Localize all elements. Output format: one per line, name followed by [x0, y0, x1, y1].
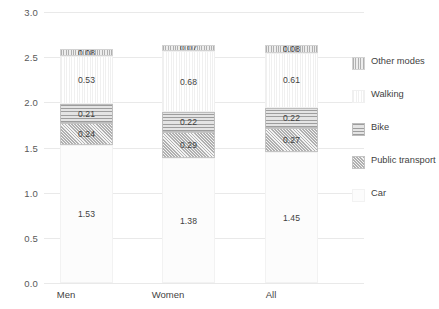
segment-value: 0.21: [78, 109, 95, 119]
segment-all-bike[interactable]: 0.22: [265, 108, 318, 128]
segment-value: 0.08: [283, 45, 300, 52]
legend-label-other-modes: Other modes: [371, 56, 425, 68]
stacked-bar-chart: 3.0 2.5 2.0 1.5 1.0 0.5 0.0 0.08 0.53 0.…: [0, 0, 439, 309]
bar-all[interactable]: 0.08 0.61 0.22 0.27 1.45: [265, 45, 318, 283]
y-axis-tick-3-0: 3.0: [24, 7, 38, 18]
segment-value: 0.22: [180, 117, 197, 127]
legend-label-walking: Walking: [371, 89, 404, 101]
gridline-0-0: [44, 283, 364, 284]
segment-value: 1.53: [78, 209, 95, 219]
segment-men-car[interactable]: 1.53: [60, 145, 113, 283]
segment-all-other-modes[interactable]: 0.08: [265, 45, 318, 52]
swatch-walking-icon: [352, 90, 365, 103]
segment-value: 0.29: [180, 140, 197, 150]
x-axis-label-men: Men: [26, 289, 106, 300]
legend-label-car: Car: [371, 188, 386, 200]
segment-value: 1.45: [283, 213, 300, 223]
segment-women-public-transport[interactable]: 0.29: [162, 132, 215, 158]
plot-area: 3.0 2.5 2.0 1.5 1.0 0.5 0.0 0.08 0.53 0.…: [44, 12, 364, 283]
legend-label-bike: Bike: [371, 122, 389, 134]
segment-women-bike[interactable]: 0.22: [162, 112, 215, 132]
segment-men-walking[interactable]: 0.53: [60, 56, 113, 104]
legend-item-public-transport[interactable]: Public transport: [352, 155, 438, 169]
y-axis-tick-0-0: 0.0: [24, 278, 38, 289]
legend-item-bike[interactable]: Bike: [352, 122, 438, 136]
legend-item-walking[interactable]: Walking: [352, 89, 438, 103]
y-axis-tick-1-5: 1.5: [24, 142, 38, 153]
segment-value: 0.27: [283, 135, 300, 145]
bar-men[interactable]: 0.08 0.53 0.21 0.24 1.53: [60, 49, 113, 283]
segment-value: 0.61: [283, 75, 300, 85]
segment-value: 0.22: [283, 113, 300, 123]
y-axis-tick-2-0: 2.0: [24, 97, 38, 108]
segment-men-other-modes[interactable]: 0.08: [60, 49, 113, 56]
segment-value: 1.38: [180, 216, 197, 226]
legend-item-other-modes[interactable]: Other modes: [352, 56, 438, 70]
segment-men-bike[interactable]: 0.21: [60, 104, 113, 123]
legend-label-public-transport: Public transport: [371, 155, 436, 167]
x-axis-label-women: Women: [128, 289, 208, 300]
swatch-public-transport-icon: [352, 156, 365, 169]
chart-legend: Other modes Walking Bike Public transpor…: [352, 56, 438, 221]
swatch-car-icon: [352, 189, 365, 202]
segment-women-walking[interactable]: 0.68: [162, 51, 215, 112]
segment-all-public-transport[interactable]: 0.27: [265, 128, 318, 152]
bar-women[interactable]: 0.07 0.68 0.22 0.29 1.38: [162, 45, 215, 283]
segment-value: 0.08: [78, 49, 95, 56]
y-axis-tick-2-5: 2.5: [24, 52, 38, 63]
legend-item-car[interactable]: Car: [352, 188, 438, 202]
y-axis-tick-0-5: 0.5: [24, 232, 38, 243]
segment-value: 0.24: [78, 129, 95, 139]
segment-women-car[interactable]: 1.38: [162, 158, 215, 283]
segment-all-walking[interactable]: 0.61: [265, 53, 318, 108]
swatch-other-modes-icon: [352, 57, 365, 70]
segment-all-car[interactable]: 1.45: [265, 152, 318, 283]
x-axis-label-all: All: [231, 289, 311, 300]
segment-value: 0.68: [180, 77, 197, 87]
segment-value: 0.53: [78, 75, 95, 85]
y-axis-tick-1-0: 1.0: [24, 187, 38, 198]
gridline-3-0: [44, 12, 364, 13]
segment-men-public-transport[interactable]: 0.24: [60, 123, 113, 145]
swatch-bike-icon: [352, 123, 365, 136]
